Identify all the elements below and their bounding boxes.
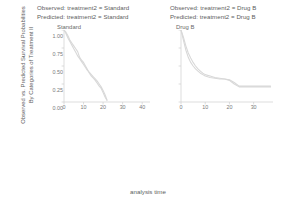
y-tick-labels-drug-b bbox=[163, 30, 183, 102]
legend-left-predicted: Predicted: treatment2 = Standard bbox=[37, 13, 129, 22]
x-tick-label: 10 bbox=[202, 104, 208, 110]
y-axis-title-line2: By Categories of Treatment II bbox=[27, 0, 35, 145]
x-tick-label: 30 bbox=[120, 104, 126, 110]
y-tick-labels-standard: 0.000.250.500.751.00 bbox=[44, 30, 64, 102]
x-tick-labels-drug-b: 0102030 bbox=[163, 104, 275, 116]
panel-standard: Standard 0.000.250.500.751.00 010203040 bbox=[44, 24, 152, 106]
x-axis-title: analysis time bbox=[0, 188, 296, 195]
x-tick-label: 0 bbox=[63, 104, 66, 110]
y-tick-label: 0.75 bbox=[53, 51, 64, 57]
legend-left: Observed: treatment2 = Standard Predicte… bbox=[37, 4, 129, 21]
y-axis-title: Observed vs. Predicted Survival Probabil… bbox=[19, 0, 39, 145]
y-tick-label: 0.50 bbox=[53, 69, 64, 75]
x-tick-label: 20 bbox=[100, 104, 106, 110]
legend-right: Observed: treatment2 = Drug B Predicted:… bbox=[170, 4, 256, 21]
legend-right-observed: Observed: treatment2 = Drug B bbox=[170, 4, 256, 13]
x-tick-label: 0 bbox=[180, 104, 183, 110]
x-tick-label: 30 bbox=[251, 104, 257, 110]
x-tick-label: 10 bbox=[81, 104, 87, 110]
panel-drug-b: Drug B 0102030 bbox=[163, 24, 275, 106]
y-axis-title-line1: Observed vs. Predicted Survival Probabil… bbox=[19, 0, 27, 145]
x-tick-label: 20 bbox=[226, 104, 232, 110]
x-tick-labels-standard: 010203040 bbox=[44, 104, 152, 116]
survival-probability-figure: Observed: treatment2 = Standard Predicte… bbox=[0, 0, 296, 206]
legend-left-observed: Observed: treatment2 = Standard bbox=[37, 4, 129, 13]
legend-right-predicted: Predicted: treatment2 = Drug B bbox=[170, 13, 256, 22]
x-tick-label: 40 bbox=[139, 104, 145, 110]
y-tick-label: 0.25 bbox=[53, 87, 64, 93]
y-tick-label: 1.00 bbox=[53, 33, 64, 39]
